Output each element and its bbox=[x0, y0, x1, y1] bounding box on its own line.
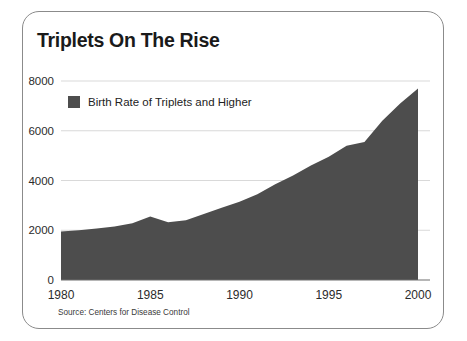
x-axis-tick-label: 1980 bbox=[48, 288, 75, 302]
legend-swatch-icon bbox=[68, 96, 80, 108]
plot-area: 02000400060008000 19801985199019952000 bbox=[23, 12, 445, 330]
series-area-birth-rate bbox=[61, 88, 418, 280]
y-axis-tick-label: 4000 bbox=[28, 175, 54, 187]
y-axis-tick-labels: 02000400060008000 bbox=[28, 75, 54, 286]
chart-card: Triplets On The Rise 02000400060008000 1… bbox=[22, 11, 444, 329]
y-axis-tick-label: 2000 bbox=[28, 224, 54, 236]
x-axis-tick-label: 1990 bbox=[226, 288, 253, 302]
x-axis-tick-labels: 19801985199019952000 bbox=[48, 288, 432, 302]
y-axis-tick-label: 0 bbox=[48, 274, 54, 286]
area-chart-svg: 02000400060008000 19801985199019952000 bbox=[23, 12, 445, 330]
source-note: Source: Centers for Disease Control bbox=[58, 308, 190, 317]
legend: Birth Rate of Triplets and Higher bbox=[68, 96, 252, 108]
x-axis-tick-label: 2000 bbox=[405, 288, 432, 302]
legend-item-label: Birth Rate of Triplets and Higher bbox=[88, 96, 252, 108]
x-axis-tick-label: 1985 bbox=[137, 288, 164, 302]
y-axis-tick-label: 6000 bbox=[28, 125, 54, 137]
y-axis-tick-label: 8000 bbox=[28, 75, 54, 87]
x-axis-tick-label: 1995 bbox=[315, 288, 342, 302]
